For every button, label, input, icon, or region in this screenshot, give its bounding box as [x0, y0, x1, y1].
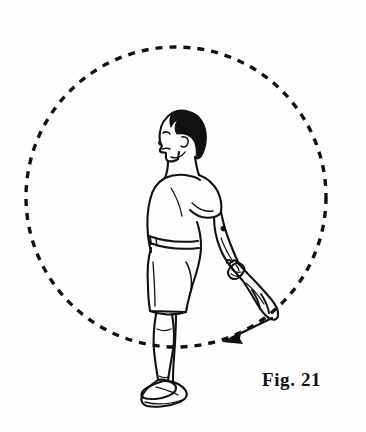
figure-illustration	[0, 0, 366, 432]
mouth	[162, 148, 170, 149]
figure-plate: Fig. 21	[0, 0, 366, 432]
plate-background	[0, 0, 366, 432]
belt-buckle-2	[156, 239, 157, 246]
belt-buckle	[150, 237, 151, 244]
